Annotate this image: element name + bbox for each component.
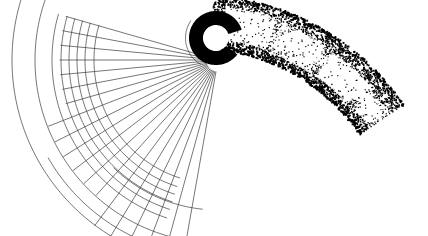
stipple-dot <box>388 102 389 103</box>
stipple-dot <box>328 97 330 99</box>
stipple-dot <box>271 16 272 17</box>
stipple-dot <box>307 33 308 34</box>
stipple-dot <box>314 72 315 73</box>
stipple-dot <box>267 60 269 62</box>
figure-canvas: Curved grid and stippled band diagram <box>0 0 428 236</box>
stipple-dot <box>288 51 289 52</box>
stipple-dot <box>374 122 375 123</box>
stipple-dot <box>402 105 404 107</box>
stipple-dot <box>325 41 326 42</box>
stipple-dot <box>275 32 276 33</box>
stipple-dot <box>348 56 349 57</box>
stipple-dot <box>328 32 330 34</box>
stipple-dot <box>300 70 302 72</box>
stipple-dot <box>293 18 295 20</box>
stipple-dot <box>214 7 215 8</box>
stipple-dot <box>218 9 219 10</box>
stipple-dot <box>338 109 340 111</box>
stipple-dot <box>317 37 318 38</box>
stipple-dot <box>340 102 342 104</box>
stipple-dot <box>377 86 378 87</box>
grid-radial <box>164 72 215 236</box>
stipple-dot <box>351 102 352 103</box>
stipple-dot <box>317 38 318 39</box>
stipple-dot <box>224 4 226 6</box>
stipple-dot <box>270 59 272 61</box>
stipple-dot <box>305 24 307 26</box>
stipple-dot <box>273 63 275 65</box>
stipple-dot <box>252 5 254 7</box>
stipple-dot <box>306 28 308 30</box>
stipple-dot <box>317 82 319 84</box>
stipple-dot <box>314 81 316 83</box>
stipple-dot <box>321 36 323 38</box>
stipple-dot <box>354 100 355 101</box>
stipple-dot <box>321 34 323 36</box>
stipple-dot <box>307 23 309 25</box>
stipple-dot <box>363 69 365 71</box>
stipple-dot <box>237 7 238 8</box>
stipple-dot <box>298 42 299 43</box>
stipple-dot <box>254 10 255 11</box>
stipple-dot <box>363 74 364 75</box>
stipple-dot <box>251 46 252 47</box>
stipple-dot <box>343 57 344 58</box>
stipple-dot <box>363 131 365 133</box>
stipple-dot <box>267 54 269 56</box>
stipple-dot <box>353 113 354 114</box>
stipple-dot <box>321 92 323 94</box>
stipple-dot <box>327 93 329 95</box>
stipple-dot <box>301 40 302 41</box>
stipple-dot <box>374 85 375 86</box>
stipple-dot <box>261 59 263 61</box>
stipple-dot <box>370 71 372 73</box>
grid-arc <box>94 26 180 178</box>
stipple-dot <box>269 9 271 11</box>
stipple-dot <box>262 41 263 42</box>
stipple-dot <box>291 69 293 71</box>
stipple-dot <box>293 67 295 69</box>
stipple-dot <box>233 45 235 47</box>
stipple-dot <box>238 44 239 45</box>
stipple-dot <box>363 64 365 66</box>
stipple-dot <box>273 15 275 17</box>
stipple-dot <box>303 32 304 33</box>
stipple-dot <box>272 36 273 37</box>
stipple-dot <box>365 125 366 126</box>
stipple-dot <box>387 85 389 87</box>
stipple-dot <box>276 29 277 30</box>
stipple-dot <box>263 33 264 34</box>
stipple-dot <box>298 28 299 29</box>
stipple-dot <box>360 119 361 120</box>
stipple-dot <box>330 71 331 72</box>
stipple-dot <box>339 91 340 92</box>
stipple-dot <box>331 46 332 47</box>
stipple-dot <box>326 33 328 35</box>
stipple-dot <box>237 31 238 32</box>
stipple-dot <box>370 74 372 76</box>
stipple-dot <box>271 63 273 65</box>
stipple-dot <box>290 31 291 32</box>
stipple-dot <box>368 89 369 90</box>
stipple-dot <box>354 56 356 58</box>
stipple-dot <box>223 8 224 9</box>
stipple-dot <box>289 15 291 17</box>
stipple-dot <box>263 9 265 11</box>
stipple-dot <box>355 63 356 64</box>
stipple-dot <box>245 53 247 55</box>
stipple-dot <box>287 15 289 17</box>
stipple-dot <box>365 78 366 79</box>
stipple-dot <box>345 56 346 57</box>
stipple-dot <box>378 84 380 86</box>
stipple-dot <box>346 60 347 61</box>
stipple-dot <box>362 70 363 71</box>
stipple-dot <box>248 9 249 10</box>
stipple-dot <box>368 80 369 81</box>
stipple-dot <box>382 95 383 96</box>
stipple-dot <box>386 89 388 91</box>
stipple-dot <box>324 47 325 48</box>
stipple-dot <box>346 46 348 48</box>
stipple-dot <box>258 33 259 34</box>
stipple-dot <box>280 10 282 12</box>
stipple-dot <box>332 90 333 91</box>
